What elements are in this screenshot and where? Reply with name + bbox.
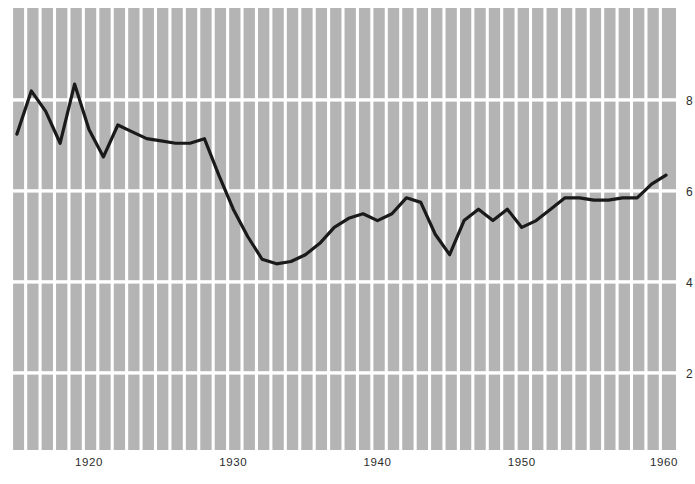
horizontal-gridline: [10, 189, 676, 192]
vertical-gridline: [572, 8, 575, 450]
vertical-gridline: [183, 8, 186, 450]
x-tick-label: 1960: [650, 456, 678, 468]
vertical-gridline: [269, 8, 272, 450]
vertical-gridline: [212, 8, 215, 450]
vertical-gridline: [486, 8, 489, 450]
vertical-gridline: [428, 8, 431, 450]
y-tick-label: 4: [686, 276, 693, 290]
y-tick-label: 8: [686, 94, 693, 108]
vertical-gridline: [414, 8, 417, 450]
vertical-gridline: [67, 8, 70, 450]
vertical-gridline: [341, 8, 344, 450]
vertical-gridline: [558, 8, 561, 450]
vertical-gridline: [125, 8, 128, 450]
chart-figure: 8642 19201930194019501960: [0, 0, 695, 484]
vertical-gridline: [442, 8, 445, 450]
vertical-gridline: [399, 8, 402, 450]
vertical-gridline: [601, 8, 604, 450]
vertical-gridline: [255, 8, 258, 450]
vertical-gridline: [313, 8, 316, 450]
horizontal-gridline: [10, 98, 676, 101]
vertical-gridline: [543, 8, 546, 450]
vertical-gridline: [616, 8, 619, 450]
vertical-gridline: [515, 8, 518, 450]
vertical-gridline: [111, 8, 114, 450]
vertical-gridline: [644, 8, 647, 450]
x-tick-label: 1950: [508, 456, 536, 468]
vertical-gridline: [471, 8, 474, 450]
y-tick-label: 6: [686, 185, 693, 199]
vertical-gridline: [154, 8, 157, 450]
vertical-gridline: [10, 8, 13, 450]
vertical-gridline: [327, 8, 330, 450]
x-tick-label: 1920: [75, 456, 103, 468]
vertical-gridline: [168, 8, 171, 450]
vertical-gridline: [96, 8, 99, 450]
vertical-gridline: [82, 8, 85, 450]
vertical-gridline: [356, 8, 359, 450]
vertical-gridline: [630, 8, 633, 450]
y-tick-label: 2: [686, 367, 693, 381]
vertical-gridline: [24, 8, 27, 450]
vertical-gridline: [39, 8, 42, 450]
vertical-gridline: [659, 8, 662, 450]
vertical-gridline: [197, 8, 200, 450]
line-chart: 8642 19201930194019501960: [0, 0, 695, 484]
x-tick-label: 1940: [364, 456, 392, 468]
vertical-gridline: [385, 8, 388, 450]
vertical-gridline: [529, 8, 532, 450]
vertical-gridline: [370, 8, 373, 450]
vertical-gridline: [298, 8, 301, 450]
horizontal-gridline: [10, 280, 676, 283]
vertical-gridline: [140, 8, 143, 450]
vertical-gridline: [284, 8, 287, 450]
vertical-gridline: [53, 8, 56, 450]
vertical-gridline: [226, 8, 229, 450]
horizontal-gridline: [10, 371, 676, 374]
vertical-gridline: [500, 8, 503, 450]
x-tick-label: 1930: [219, 456, 247, 468]
vertical-gridline: [587, 8, 590, 450]
